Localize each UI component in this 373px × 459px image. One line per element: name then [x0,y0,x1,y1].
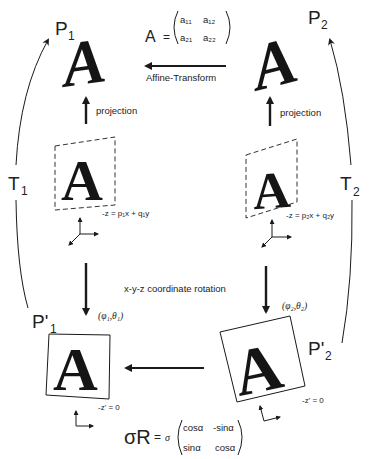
p2-prime-subscript: 2 [325,349,332,363]
t1-arc-upper [16,40,48,165]
matrix-sr-scalar: σ [165,432,171,443]
projection-left-label: projection [96,105,137,116]
p2-letter-a: A [240,22,304,104]
matrix-a-cell-22: a₂₂ [203,32,216,43]
matrix-a-cell-12: a₁₂ [203,14,215,25]
matrix-a-cell-21: a₂₁ [180,32,192,43]
t1-label: T [8,173,20,194]
edge-projection-left: projection [86,98,137,124]
edge-t2: T 2 [330,40,360,343]
node-p2-prime: A P' 2 -z' = 0 [220,316,332,421]
t2-arc-upper [330,40,351,165]
matrix-sr-right-paren [238,420,242,455]
matrix-sr-name: σR [124,426,151,448]
t2-subscript: 2 [353,185,360,199]
p2-prime-label: P' [308,338,324,359]
axes-2d-left-icon [76,411,93,426]
p1-prime-letter-a: A [53,335,98,403]
matrix-a: A = a₁₁ a₁₂ a₂₁ a₂₂ [145,11,230,45]
edge-rotation: x-y-z coordinate rotation (φ₁,θ₁) (φ₂,θ₂… [86,263,307,322]
edge-t1: T 1 [8,40,48,308]
projection-right-label: projection [280,107,321,118]
p2-label: P [308,7,321,28]
affine-rotation-diagram: P 1 A A = a₁₁ a₁₂ a₂₁ a₂₂ Affine-Transfo… [0,0,373,459]
p2-subscript: 2 [321,18,328,32]
node-p1: P 1 A [54,18,110,101]
node-plane1: A -z = p₁x + q₁y [55,137,149,245]
matrix-a-left-paren [174,11,178,44]
matrix-sr-cell-12: -sinα [213,422,234,433]
matrix-sr-cell-21: sinα [183,442,201,453]
edge-projection-right: projection [270,98,321,126]
t2-label: T [340,173,352,194]
plane1-letter-a: A [61,148,103,213]
axes-3d-left-icon [69,218,98,245]
angles-right-label: (φ₂,θ₂) [282,301,307,312]
z-prime-right-label: -z' = 0 [302,396,324,405]
plane1-equation: -z = p₁x + q₁y [102,209,149,218]
node-plane2: A -z = p₂x + q₂y [246,139,334,247]
rotation-label: x-y-z coordinate rotation [124,283,226,294]
matrix-a-equals: = [163,30,170,44]
edge-affine-transform: Affine-Transform [146,66,226,83]
affine-label: Affine-Transform [146,72,216,83]
axes-2d-right-icon [260,406,280,421]
p1-prime-label: P' [32,311,48,332]
angles-left-label: (φ₁,θ₁) [98,311,123,322]
matrix-a-name: A [145,28,156,45]
node-p1-prime: P' 1 A -z' = 0 [32,311,120,426]
p1-letter-a: A [54,24,110,101]
matrix-a-right-paren [226,11,230,44]
t1-subscript: 1 [21,184,28,198]
matrix-a-cell-11: a₁₁ [180,14,192,25]
matrix-sigma-r: σR = σ cosα -sinα sinα cosα [124,420,242,455]
matrix-sr-equals: = [154,430,161,444]
t2-arc-lower [342,200,352,343]
z-prime-left-label: -z' = 0 [98,403,120,412]
axes-3d-right-icon [262,220,291,247]
matrix-sr-cell-11: cosα [183,422,204,433]
plane2-equation: -z = p₂x + q₂y [286,211,334,220]
matrix-sr-left-paren [178,420,182,455]
node-p2: A P 2 [240,7,328,105]
t1-arc-lower [16,200,28,308]
matrix-sr-cell-22: cosα [215,442,236,453]
